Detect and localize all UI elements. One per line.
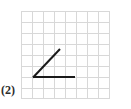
grid-lines — [21, 11, 110, 99]
figure-number-label: (2) — [1, 82, 20, 98]
figure-canvas: (2) — [0, 0, 131, 109]
grid-container — [21, 11, 110, 99]
